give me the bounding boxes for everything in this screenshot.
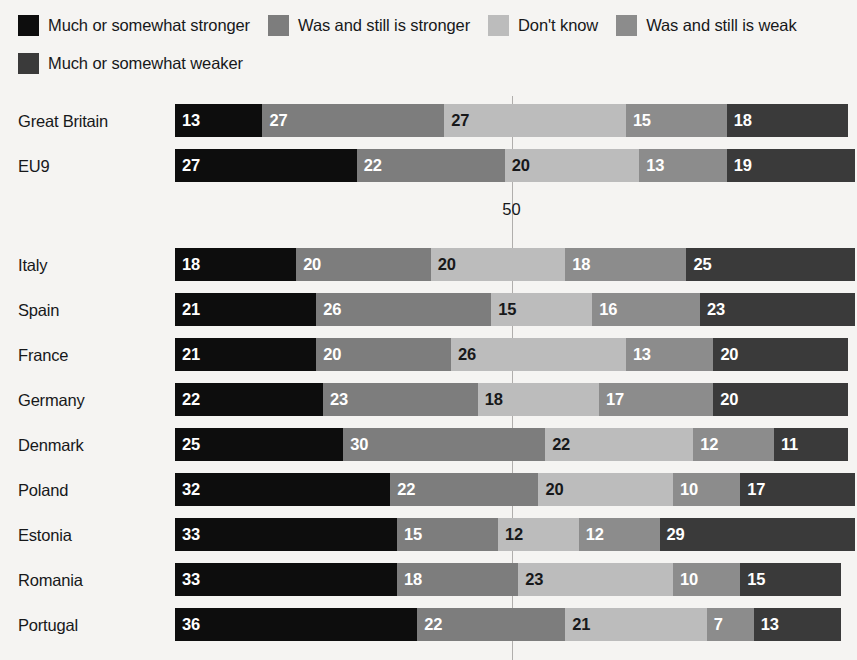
row-label-romania: Romania xyxy=(18,570,83,589)
bar-segment[interactable]: 36 xyxy=(175,608,417,641)
bar-segment[interactable]: 12 xyxy=(579,518,660,551)
bar-segment[interactable]: 26 xyxy=(451,338,626,371)
bar-segment-value: 29 xyxy=(660,526,685,543)
bar-segment-value: 23 xyxy=(323,391,348,408)
bar-segment-value: 13 xyxy=(626,346,651,363)
bar-segment-value: 10 xyxy=(673,571,698,588)
bar-segment[interactable]: 26 xyxy=(316,293,491,326)
bar-segment[interactable]: 17 xyxy=(740,473,854,506)
bar-segment-value: 25 xyxy=(175,436,200,453)
bar-segment[interactable]: 22 xyxy=(390,473,538,506)
bar-segment-value: 7 xyxy=(707,616,723,633)
bar-segment-value: 15 xyxy=(491,301,516,318)
bar-segment[interactable]: 12 xyxy=(498,518,579,551)
stacked-bar: 2722201319 xyxy=(175,149,855,182)
row-label-italy: Italy xyxy=(18,255,47,274)
legend-swatch-was-and-still-is-weak xyxy=(616,15,637,36)
bar-segment[interactable]: 19 xyxy=(727,149,855,182)
bar-segment[interactable]: 11 xyxy=(774,428,848,461)
bar-segment[interactable]: 27 xyxy=(444,104,626,137)
bar-segment-value: 23 xyxy=(700,301,725,318)
bar-segment-value: 20 xyxy=(316,346,341,363)
bar-segment[interactable]: 18 xyxy=(727,104,848,137)
bar-segment[interactable]: 21 xyxy=(175,293,316,326)
bar-segment[interactable]: 20 xyxy=(316,338,451,371)
bar-segment[interactable]: 10 xyxy=(673,563,740,596)
bar-segment[interactable]: 18 xyxy=(397,563,518,596)
bar-segment[interactable]: 27 xyxy=(262,104,444,137)
bar-segment-value: 33 xyxy=(175,571,200,588)
row-label-estonia: Estonia xyxy=(18,525,72,544)
bar-segment-value: 30 xyxy=(343,436,368,453)
legend-item-was-and-still-is-stronger[interactable]: Was and still is stronger xyxy=(268,15,470,36)
bar-segment[interactable]: 33 xyxy=(175,563,397,596)
chart-row: Germany2223181720 xyxy=(0,383,857,416)
bar-segment[interactable]: 20 xyxy=(431,248,566,281)
bar-segment[interactable]: 15 xyxy=(397,518,498,551)
bar-segment[interactable]: 20 xyxy=(538,473,673,506)
bar-segment-value: 18 xyxy=(175,256,200,273)
bar-segment[interactable]: 13 xyxy=(639,149,726,182)
bar-segment[interactable]: 21 xyxy=(175,338,316,371)
bar-segment[interactable]: 18 xyxy=(565,248,686,281)
bar-segment-value: 22 xyxy=(545,436,570,453)
bar-segment[interactable]: 15 xyxy=(740,563,841,596)
bar-segment-value: 20 xyxy=(713,346,738,363)
bar-segment[interactable]: 23 xyxy=(700,293,855,326)
legend-row-secondary: Much or somewhat weaker xyxy=(0,48,857,78)
bar-segment[interactable]: 20 xyxy=(505,149,640,182)
bar-segment[interactable]: 22 xyxy=(175,383,323,416)
legend-item-dont-know[interactable]: Don't know xyxy=(488,15,598,36)
bar-segment[interactable]: 13 xyxy=(626,338,713,371)
bar-segment[interactable]: 10 xyxy=(673,473,740,506)
chart-row: Poland3222201017 xyxy=(0,473,857,506)
bar-segment[interactable]: 15 xyxy=(626,104,727,137)
bar-segment[interactable]: 23 xyxy=(323,383,478,416)
bar-segment[interactable]: 32 xyxy=(175,473,390,506)
bar-segment[interactable]: 18 xyxy=(175,248,296,281)
bar-segment[interactable]: 16 xyxy=(592,293,700,326)
bar-segment[interactable]: 20 xyxy=(713,338,848,371)
stacked-bar: 3222201017 xyxy=(175,473,855,506)
bar-segment[interactable]: 22 xyxy=(417,608,565,641)
legend-label-was-and-still-is-weak: Was and still is weak xyxy=(646,16,796,35)
bar-segment[interactable]: 30 xyxy=(343,428,545,461)
row-label-great-britain: Great Britain xyxy=(18,111,108,130)
row-label-poland: Poland xyxy=(18,480,68,499)
bar-segment[interactable]: 12 xyxy=(693,428,774,461)
legend-item-was-and-still-is-weak[interactable]: Was and still is weak xyxy=(616,15,796,36)
bar-segment[interactable]: 7 xyxy=(707,608,754,641)
stacked-bar: 1820201825 xyxy=(175,248,855,281)
bar-segment-value: 25 xyxy=(686,256,711,273)
bar-segment[interactable]: 25 xyxy=(686,248,854,281)
bar-segment[interactable]: 13 xyxy=(175,104,262,137)
bar-segment[interactable]: 17 xyxy=(599,383,713,416)
bar-segment-value: 20 xyxy=(296,256,321,273)
legend-item-much-or-somewhat-stronger[interactable]: Much or somewhat stronger xyxy=(18,15,250,36)
bar-segment-value: 15 xyxy=(740,571,765,588)
bar-segment[interactable]: 20 xyxy=(296,248,431,281)
stacked-bar: 2126151623 xyxy=(175,293,855,326)
bar-segment[interactable]: 21 xyxy=(565,608,706,641)
bar-segment-value: 12 xyxy=(693,436,718,453)
bar-segment[interactable]: 13 xyxy=(754,608,841,641)
bar-segment-value: 12 xyxy=(498,526,523,543)
legend-item-much-or-somewhat-weaker[interactable]: Much or somewhat weaker xyxy=(18,53,243,74)
bar-segment-value: 10 xyxy=(673,481,698,498)
bar-segment[interactable]: 23 xyxy=(518,563,673,596)
bar-segment[interactable]: 29 xyxy=(660,518,855,551)
bar-segment[interactable]: 25 xyxy=(175,428,343,461)
bar-segment[interactable]: 22 xyxy=(545,428,693,461)
bar-segment[interactable]: 33 xyxy=(175,518,397,551)
legend-swatch-was-and-still-is-stronger xyxy=(268,15,289,36)
bar-segment-value: 20 xyxy=(713,391,738,408)
bar-segment[interactable]: 18 xyxy=(478,383,599,416)
bar-segment-value: 20 xyxy=(431,256,456,273)
bar-segment[interactable]: 20 xyxy=(713,383,848,416)
bar-segment[interactable]: 15 xyxy=(491,293,592,326)
stacked-bar: 3318231015 xyxy=(175,563,841,596)
bar-segment[interactable]: 27 xyxy=(175,149,357,182)
bar-segment[interactable]: 22 xyxy=(357,149,505,182)
legend-label-much-or-somewhat-stronger: Much or somewhat stronger xyxy=(48,16,250,35)
bar-segment-value: 22 xyxy=(417,616,442,633)
